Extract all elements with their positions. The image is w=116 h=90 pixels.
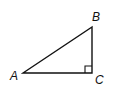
triangle-diagram: A B C (0, 0, 116, 90)
triangle-abc (23, 27, 92, 73)
vertex-label-b: B (92, 10, 100, 24)
vertex-label-a: A (9, 69, 18, 83)
vertex-label-c: C (95, 73, 104, 87)
right-angle-marker (85, 66, 92, 73)
